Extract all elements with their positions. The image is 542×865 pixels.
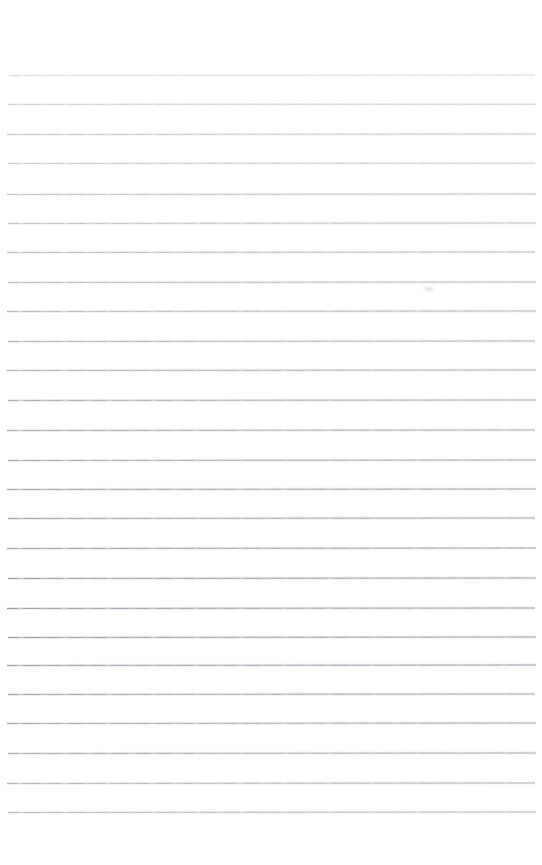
ruled-line xyxy=(7,665,536,666)
ruled-line xyxy=(8,637,536,638)
ruled-line xyxy=(7,548,536,549)
scan-smudge xyxy=(424,287,433,291)
ruled-line xyxy=(7,429,535,431)
ruled-line xyxy=(7,311,536,312)
scanned-page xyxy=(0,0,542,865)
ruled-line xyxy=(7,782,535,784)
ruled-line xyxy=(7,194,536,195)
ruled-line xyxy=(8,693,535,695)
ruled-line xyxy=(7,607,535,609)
ruled-line xyxy=(7,489,536,490)
ruled-line xyxy=(8,812,536,813)
ruled-line xyxy=(8,223,536,224)
ruled-line xyxy=(8,163,535,164)
ruled-line xyxy=(8,460,536,461)
ruled-lines-layer xyxy=(0,0,542,865)
ruled-line xyxy=(8,578,536,579)
ruled-line xyxy=(8,340,535,342)
ruled-line xyxy=(8,400,536,401)
ruled-line xyxy=(9,75,535,76)
ruled-line xyxy=(7,134,536,135)
ruled-line xyxy=(7,370,536,371)
ruled-line xyxy=(7,723,536,724)
ruled-line xyxy=(8,104,536,105)
ruled-line xyxy=(8,517,535,519)
ruled-line xyxy=(8,282,536,283)
ruled-line xyxy=(8,753,536,754)
ruled-line xyxy=(7,251,535,253)
